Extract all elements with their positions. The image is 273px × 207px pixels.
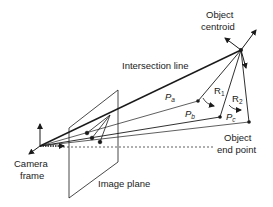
ray-pb <box>40 117 220 146</box>
object-end-point-label-2: end point <box>217 144 256 155</box>
pc-label: Pc <box>226 111 236 123</box>
camera-frame-label-2: frame <box>20 170 44 181</box>
image-plane-label: Image plane <box>98 178 150 189</box>
rotation-r2-arrow <box>229 105 241 110</box>
r1-label: R1 <box>214 85 225 97</box>
object-centroid-label-2: centroid <box>201 21 235 32</box>
intersection-line-label: Intersection line <box>122 60 189 71</box>
point-pc <box>247 120 251 124</box>
centroid-lines <box>198 50 249 122</box>
object-centroid-label-1: Object <box>206 9 234 20</box>
centroid-point <box>239 48 243 52</box>
camera-frame-label-1: Camera <box>14 158 49 169</box>
point-pb <box>218 115 222 119</box>
object-end-point-label-1: Object <box>224 132 252 143</box>
pa-label: Pa <box>165 91 175 103</box>
projection-diagram: Object centroid Intersection line Pa Pb … <box>0 0 273 207</box>
point-pa <box>196 99 200 103</box>
pb-label: Pb <box>185 108 195 120</box>
r2-label: R2 <box>232 93 243 105</box>
rotation-r1-arrow <box>203 98 214 106</box>
ray-pc <box>40 122 249 146</box>
camera-frame-axes <box>29 124 64 154</box>
